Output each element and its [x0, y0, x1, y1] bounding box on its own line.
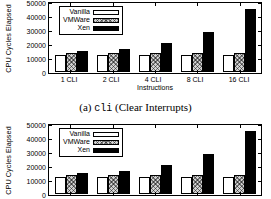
axis-tick-mark: [240, 192, 241, 195]
legend-label: Vanilla: [69, 8, 90, 16]
legend-label: Vanilla: [69, 130, 90, 138]
axis-tick-mark: [155, 3, 156, 6]
legend-entry-xen: Xen: [63, 24, 119, 32]
bar-xen-16-cli: [245, 131, 256, 194]
axis-tick-mark: [258, 167, 261, 168]
axis-tick-mark: [258, 31, 261, 32]
axis-tick-mark: [258, 3, 261, 4]
axis-tick-mark: [258, 45, 261, 46]
x-axis-label-top: Instructions: [48, 84, 262, 92]
axis-tick-mark: [49, 167, 52, 168]
axis-tick-mark: [49, 195, 52, 196]
y-axis-label-bottom: CPU Cycles Elapsed: [2, 124, 14, 196]
axis-tick-mark: [49, 31, 52, 32]
axis-tick-mark: [113, 192, 114, 195]
y-tick-label: 10000: [27, 56, 46, 63]
y-tick-label: 0: [42, 70, 46, 77]
axis-tick-mark: [155, 192, 156, 195]
x-tick-label: 8 CLI: [187, 75, 204, 84]
bar-vanilla-8-cli: [181, 177, 192, 194]
axis-tick-mark: [240, 70, 241, 73]
bar-xen-16-cli: [245, 9, 256, 72]
axis-tick-mark: [49, 59, 52, 60]
legend-entry-xen: Xen: [63, 146, 119, 154]
y-axis-label: CPU Cycles Elapsed: [2, 2, 14, 74]
axis-tick-mark: [197, 192, 198, 195]
axis-tick-mark: [49, 45, 52, 46]
axis-tick-mark: [197, 70, 198, 73]
axis-tick-mark: [258, 59, 261, 60]
plot-area-bottom: VanillaVMWareXen: [48, 124, 262, 196]
bar-group: [223, 126, 256, 194]
legend-entry-vmware: VMWare: [63, 138, 119, 146]
axis-tick-mark: [113, 3, 114, 6]
axis-tick-mark: [155, 125, 156, 128]
bar-xen-8-cli: [203, 32, 214, 72]
legend-swatch-vmware: [93, 140, 119, 145]
axis-tick-mark: [70, 70, 71, 73]
axis-tick-mark: [258, 195, 261, 196]
axis-tick-mark: [155, 70, 156, 73]
legend-label: VMWare: [63, 138, 90, 146]
x-tick-label: 1 CLI: [61, 75, 78, 84]
y-tick-label: 10000: [27, 178, 46, 185]
axis-tick-mark: [113, 125, 114, 128]
legend-entry-vanilla: Vanilla: [63, 8, 119, 16]
axis-tick-mark: [70, 192, 71, 195]
axis-tick-mark: [258, 153, 261, 154]
x-tick-label: 2 CLI: [103, 75, 120, 84]
axis-tick-mark: [258, 17, 261, 18]
bar-xen-2-cli: [119, 171, 130, 194]
axis-tick-mark: [240, 125, 241, 128]
figure-cli-microbenchmark: CPU Cycles Elapsed 010000200003000040000…: [0, 0, 271, 199]
bar-xen-1-cli: [77, 173, 88, 194]
bar-vanilla-8-cli: [181, 55, 192, 72]
axis-tick-mark: [49, 125, 52, 126]
bar-vanilla-1-cli: [55, 55, 66, 72]
bar-group: [139, 126, 172, 194]
axis-tick-mark: [70, 125, 71, 128]
legend-swatch-vmware: [93, 18, 119, 23]
caption-prefix: (a): [79, 101, 94, 113]
bar-xen-4-cli: [161, 43, 172, 72]
bar-group: [139, 4, 172, 72]
axis-tick-mark: [49, 3, 52, 4]
chart-cli-top: CPU Cycles Elapsed 010000200003000040000…: [0, 2, 271, 94]
legend-label: Xen: [78, 24, 90, 32]
y-tick-label: 0: [42, 192, 46, 199]
x-tick-label: 4 CLI: [145, 75, 162, 84]
axis-tick-mark: [49, 153, 52, 154]
bar-xen-4-cli: [161, 165, 172, 194]
x-axis-tick-labels-top: 1 CLI2 CLI4 CLI8 CLI16 CLI: [48, 75, 262, 84]
y-tick-label: 20000: [27, 164, 46, 171]
y-tick-label: 50000: [27, 0, 46, 7]
legend-swatch-xen: [93, 148, 119, 153]
axis-tick-mark: [49, 73, 52, 74]
figure-caption: (a) cli (Clear Interrupts): [0, 101, 271, 115]
axis-tick-mark: [113, 70, 114, 73]
bar-xen-2-cli: [119, 49, 130, 72]
axis-tick-mark: [49, 181, 52, 182]
bar-group: [223, 4, 256, 72]
y-tick-label: 50000: [27, 122, 46, 129]
bar-group: [181, 4, 214, 72]
legend-swatch-vanilla: [93, 132, 119, 137]
y-tick-label: 40000: [27, 14, 46, 21]
axis-tick-mark: [258, 139, 261, 140]
axis-tick-mark: [258, 181, 261, 182]
y-axis-tick-labels-bottom: 01000020000300004000050000: [14, 124, 46, 196]
bar-vanilla-2-cli: [97, 55, 108, 72]
bar-xen-8-cli: [203, 154, 214, 194]
chart-cli-bottom: CPU Cycles Elapsed 010000200003000040000…: [0, 124, 271, 199]
axis-tick-mark: [70, 3, 71, 6]
legend-label: VMWare: [63, 16, 90, 24]
axis-tick-mark: [258, 73, 261, 74]
legend-top: VanillaVMWareXen: [59, 6, 123, 35]
caption-suffix: (Clear Interrupts): [112, 101, 191, 113]
y-tick-label: 30000: [27, 150, 46, 157]
axis-tick-mark: [240, 3, 241, 6]
y-tick-label: 30000: [27, 28, 46, 35]
bar-vanilla-16-cli: [223, 55, 234, 72]
y-axis-tick-labels-top: 01000020000300004000050000: [14, 2, 46, 74]
caption-code: cli: [94, 103, 112, 114]
